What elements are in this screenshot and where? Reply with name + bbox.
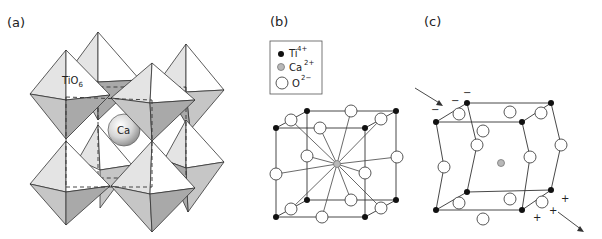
legend: Ti 4+ Ca 2+ O 2− xyxy=(270,41,322,94)
figure-canvas: (a) xyxy=(0,0,602,239)
ca-ion-distorted xyxy=(498,160,505,167)
svg-text:−: − xyxy=(431,104,439,115)
svg-text:2+: 2+ xyxy=(304,59,314,67)
svg-text:+: + xyxy=(533,212,541,223)
svg-text:Ca: Ca xyxy=(289,62,302,73)
arrow-bottom-right-icon xyxy=(558,212,584,232)
panel-b: (b) Ti 4+ Ca 2+ O 2− xyxy=(270,14,403,223)
svg-text:−: − xyxy=(451,95,459,106)
svg-text:2−: 2− xyxy=(301,74,311,82)
panel-c-label: (c) xyxy=(424,14,441,29)
ti-legend-icon xyxy=(278,51,284,57)
panel-a: (a) xyxy=(7,15,224,232)
svg-text:+: + xyxy=(549,205,557,216)
ca-label: Ca xyxy=(117,125,130,136)
panel-b-label: (b) xyxy=(270,14,288,29)
panel-a-label: (a) xyxy=(7,15,25,30)
svg-text:−: − xyxy=(463,87,471,98)
ca-ion-cubic xyxy=(334,161,341,168)
ca-legend-icon xyxy=(278,64,285,71)
o-legend-icon xyxy=(276,77,288,89)
svg-text:+: + xyxy=(561,193,569,204)
svg-text:O: O xyxy=(292,78,300,89)
svg-text:4+: 4+ xyxy=(297,45,307,53)
panel-c: (c) xyxy=(415,14,584,232)
